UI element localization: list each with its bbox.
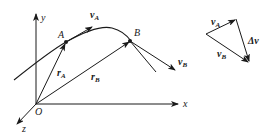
z-axis-label: z xyxy=(21,123,26,134)
triangle-vA-label: vA xyxy=(211,16,220,29)
z-axis xyxy=(17,104,36,124)
velocity-triangle: vA vB Δv xyxy=(206,16,259,62)
triangle-vB-label: vB xyxy=(217,48,226,61)
position-vectors: rA rB xyxy=(36,42,129,104)
rB-label: rB xyxy=(91,71,100,84)
position-vector-rB xyxy=(36,42,129,104)
trajectory-continuation xyxy=(130,41,156,72)
coordinate-axes: y x z O xyxy=(17,12,188,134)
x-axis-label: x xyxy=(182,98,188,109)
kinematics-diagram: y x z O rA rB A B vA vB xyxy=(0,0,271,138)
delta-v-label: Δv xyxy=(247,35,259,46)
rA-label: rA xyxy=(57,67,66,80)
point-A-label: A xyxy=(57,29,65,40)
vA-label: vA xyxy=(90,9,99,22)
points: A B xyxy=(57,27,140,44)
vB-label: vB xyxy=(178,56,187,69)
velocity-vector-vB xyxy=(130,41,175,70)
velocity-vectors: vA vB xyxy=(66,9,187,72)
velocity-vector-vA xyxy=(66,27,92,42)
point-B-label: B xyxy=(134,27,140,38)
origin-label: O xyxy=(35,106,42,117)
trajectory-curve xyxy=(14,27,131,80)
y-axis-label: y xyxy=(40,12,46,23)
